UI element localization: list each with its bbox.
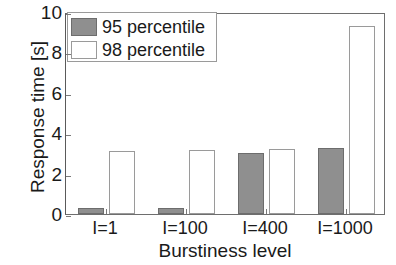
- bar-white-I1000: [349, 26, 375, 214]
- y-tick-mark: [66, 14, 71, 15]
- bar-chart-figure: Response time [s] 0246810 95 percentile …: [0, 0, 396, 265]
- x-tick-mark: [186, 209, 187, 214]
- y-tick-mark: [66, 176, 71, 177]
- x-tick-label: I=1: [92, 218, 118, 239]
- legend-swatch-95-percentile: [71, 18, 97, 36]
- x-axis-tick-labels: I=1I=100I=400I=1000: [65, 218, 385, 242]
- plot-area: 95 percentile 98 percentile: [65, 13, 385, 215]
- y-tick-label: 2: [32, 165, 62, 184]
- y-tick-mark: [66, 135, 71, 136]
- y-tick-label: 8: [32, 43, 62, 62]
- y-tick-label: 10: [32, 3, 62, 22]
- y-tick-mark: [66, 95, 71, 96]
- y-tick-label: 6: [32, 84, 62, 103]
- y-tick-label: 4: [32, 124, 62, 143]
- legend-label-95-percentile: 95 percentile: [102, 18, 205, 36]
- legend-label-98-percentile: 98 percentile: [102, 41, 205, 59]
- x-tick-mark: [106, 209, 107, 214]
- y-tick-mark: [66, 54, 71, 55]
- x-tick-label: I=100: [162, 218, 208, 239]
- bar-white-I1: [109, 151, 135, 214]
- bar-white-I400: [269, 149, 295, 214]
- bar-white-I100: [189, 150, 215, 214]
- bar-gray-I100: [158, 208, 184, 214]
- legend: 95 percentile 98 percentile: [67, 12, 217, 62]
- legend-item-95-percentile: 95 percentile: [71, 15, 213, 38]
- x-tick-mark: [266, 209, 267, 214]
- bar-gray-I1: [78, 208, 104, 214]
- y-tick-mark: [66, 216, 71, 217]
- x-tick-mark: [346, 209, 347, 214]
- legend-item-98-percentile: 98 percentile: [71, 38, 213, 61]
- bar-gray-I400: [238, 153, 264, 214]
- bar-gray-I1000: [318, 148, 344, 214]
- y-axis-tick-labels: 0246810: [28, 0, 62, 265]
- y-tick-label: 0: [32, 205, 62, 224]
- x-axis-title: Burstiness level: [65, 240, 385, 262]
- x-tick-label: I=400: [242, 218, 288, 239]
- x-tick-label: I=1000: [317, 218, 373, 239]
- legend-swatch-98-percentile: [71, 41, 97, 59]
